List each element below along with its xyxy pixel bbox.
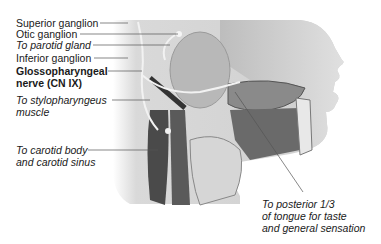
label-carotid-line2: and carotid sinus <box>16 156 95 168</box>
label-inferior-ganglion: Inferior ganglion <box>16 52 91 64</box>
label-to-parotid-gland: To parotid gland <box>16 39 91 51</box>
parotid-gland <box>170 32 230 108</box>
label-tongue-line3: and general sensation <box>262 222 365 234</box>
label-tongue-line2: of tongue for taste <box>262 210 347 222</box>
label-stylopharyngeus-line2: muscle <box>16 106 49 118</box>
carotid-body-node <box>165 128 171 134</box>
label-carotid-line1: To carotid body <box>16 144 87 156</box>
larynx <box>190 137 242 205</box>
label-glossopharyngeal-nerve-line2: nerve (CN IX) <box>16 77 82 89</box>
label-tongue-line1: To posterior 1/3 <box>262 198 335 210</box>
carotid-artery <box>148 110 169 205</box>
label-glossopharyngeal-nerve-line1: Glossopharyngeal <box>16 65 108 77</box>
label-stylopharyngeus-line1: To stylopharyngeus <box>16 94 107 106</box>
